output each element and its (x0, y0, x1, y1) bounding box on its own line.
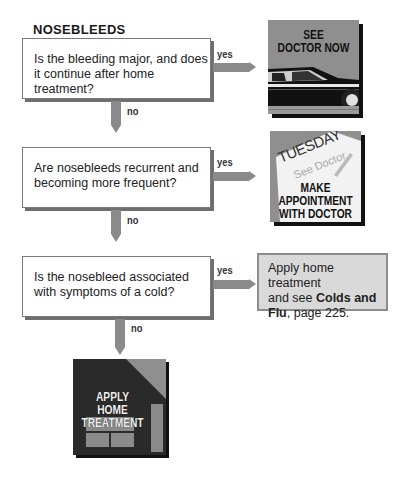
apply-home-treatment-tile: APPLY HOME TREATMENT (73, 359, 166, 455)
question-2-line2: becoming more frequent? (34, 176, 210, 191)
question-1-line2: it continue after home treatment? (34, 67, 210, 97)
yes-arrow-2 (213, 172, 249, 181)
yes-label-1: yes (217, 48, 233, 60)
see-doctor-now-tile: SEE DOCTOR NOW (268, 20, 359, 114)
yes-label-2: yes (217, 156, 233, 168)
question-3-line2: with symptoms of a cold? (34, 285, 210, 300)
question-3-line1: Is the nosebleed associated (34, 270, 210, 285)
no-arrow-1 (111, 101, 121, 125)
question-box-2: Are nosebleeds recurrent and becoming mo… (22, 147, 211, 208)
colds-and-flu-link-part2: Flu (268, 306, 287, 320)
home-line3: TREATMENT (74, 417, 151, 430)
question-box-3: Is the nosebleed associated with symptom… (22, 256, 211, 317)
cold-line3-plain: , page 225. (287, 306, 350, 320)
car-icon (268, 66, 359, 114)
no-label-2: no (127, 214, 138, 226)
no-arrow-3 (115, 319, 125, 347)
cold-line2-plain: and see (268, 291, 316, 305)
appointment-line3: WITH DOCTOR (277, 208, 354, 221)
no-arrow-2 (111, 210, 121, 234)
no-label-3: no (131, 322, 142, 334)
see-doctor-line2: DOCTOR NOW (275, 42, 352, 55)
cold-line1: Apply home treatment (268, 261, 386, 291)
question-1-line1: Is the bleeding major, and does (34, 52, 210, 67)
yes-arrow-1 (213, 63, 249, 72)
make-appointment-tile: TUESDAY See Doctor MAKE APPOINTMENT WITH… (270, 131, 361, 222)
question-2-line1: Are nosebleeds recurrent and (34, 161, 210, 176)
no-label-1: no (127, 105, 138, 117)
question-box-1: Is the bleeding major, and does it conti… (22, 38, 211, 99)
yes-arrow-3 (213, 280, 249, 289)
page-title: NOSEBLEEDS (33, 22, 126, 37)
colds-and-flu-link-part1: Colds and (316, 291, 376, 305)
yes-label-3: yes (217, 264, 233, 276)
colds-and-flu-box: Apply home treatment and see Colds and F… (257, 253, 388, 311)
